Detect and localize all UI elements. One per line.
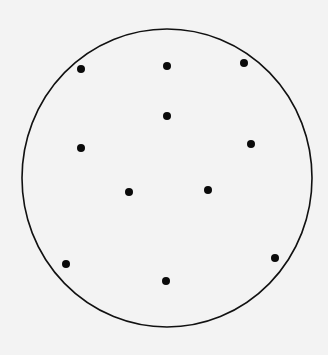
points-in-circle-diagram bbox=[0, 0, 328, 355]
point-4 bbox=[163, 112, 171, 120]
point-6 bbox=[247, 140, 255, 148]
point-9 bbox=[62, 260, 70, 268]
point-1 bbox=[77, 65, 85, 73]
diagram-canvas bbox=[0, 0, 328, 355]
point-2 bbox=[163, 62, 171, 70]
point-7 bbox=[125, 188, 133, 196]
point-3 bbox=[240, 59, 248, 67]
points-group bbox=[62, 59, 279, 285]
point-10 bbox=[271, 254, 279, 262]
point-8 bbox=[204, 186, 212, 194]
point-5 bbox=[77, 144, 85, 152]
point-11 bbox=[162, 277, 170, 285]
